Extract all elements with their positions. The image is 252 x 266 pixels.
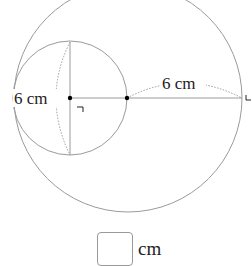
big-center-dot <box>125 96 129 100</box>
right-angle-mark-right <box>246 95 251 100</box>
answer-input-box[interactable] <box>97 232 133 266</box>
small-center-dot <box>68 96 72 100</box>
answer-unit-label: cm <box>138 238 161 260</box>
small-radius-label: 6 cm <box>14 89 48 108</box>
segment-label: 6 cm <box>162 74 196 93</box>
right-angle-mark <box>77 107 83 112</box>
